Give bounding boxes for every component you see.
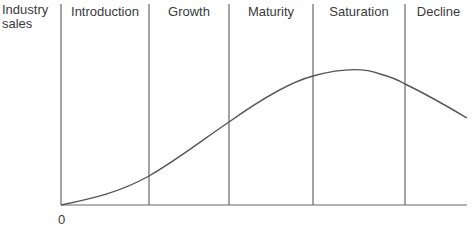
life-cycle-chart (0, 0, 472, 229)
sales-curve (61, 70, 467, 205)
